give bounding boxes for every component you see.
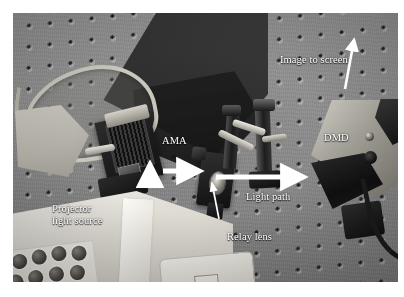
label-image-to-screen: Image to screen — [280, 54, 348, 66]
label-ama: AMA — [162, 135, 187, 147]
figure-root: Image to screen DMD AMA Light path Relay… — [0, 0, 404, 297]
label-projector-light-source: Projector light source — [52, 203, 102, 226]
label-relay-lens: Relay lens — [227, 231, 272, 243]
photograph: Image to screen DMD AMA Light path Relay… — [13, 13, 398, 282]
label-projector-line1: Projector — [52, 203, 102, 215]
label-projector-line2: light source — [52, 215, 102, 227]
label-dmd: DMD — [324, 132, 349, 144]
label-light-path: Light path — [246, 191, 290, 203]
